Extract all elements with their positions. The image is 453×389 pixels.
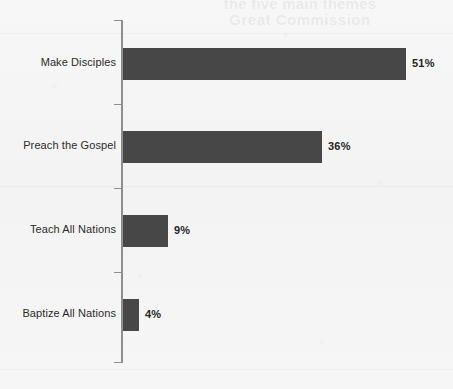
bar-rect[interactable] xyxy=(123,48,406,80)
axis-tick-3 xyxy=(114,272,121,273)
axis-tick-2 xyxy=(114,188,121,189)
bar-row[interactable]: Preach the Gospel36% xyxy=(0,131,453,163)
bar-chart-plot-area: Make Disciples51%Preach the Gospel36%Tea… xyxy=(0,0,453,389)
bar-rect[interactable] xyxy=(123,131,322,163)
bar-category-label: Teach All Nations xyxy=(30,223,116,235)
axis-tick-0 xyxy=(114,20,121,21)
bar-category-label: Preach the Gospel xyxy=(23,139,116,151)
bar-value-label: 4% xyxy=(145,308,161,320)
bar-row[interactable]: Baptize All Nations4% xyxy=(0,299,453,331)
bar-row[interactable]: Make Disciples51% xyxy=(0,48,453,80)
bar-value-label: 9% xyxy=(174,224,190,236)
bar-value-label: 36% xyxy=(328,140,351,152)
bar-category-label: Baptize All Nations xyxy=(22,307,116,319)
chart-page: the five main themes Great Commission Ma… xyxy=(0,0,453,389)
bar-rect[interactable] xyxy=(123,215,168,247)
axis-tick-1 xyxy=(114,104,121,105)
axis-tick-4 xyxy=(114,362,121,363)
bar-rect[interactable] xyxy=(123,299,139,331)
bar-value-label: 51% xyxy=(412,57,435,69)
bar-row[interactable]: Teach All Nations9% xyxy=(0,215,453,247)
bar-category-label: Make Disciples xyxy=(41,56,116,68)
